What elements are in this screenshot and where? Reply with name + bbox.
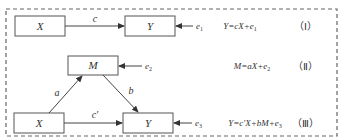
equation-number-2: （Ⅱ） [293,61,318,72]
node-m-label: M [87,59,98,71]
error-e1: e1 [196,21,203,32]
node-x-bottom-label: X [35,117,44,129]
equation-3: Y=c′X+bM+e3 [228,118,282,129]
path-label-c: c [93,13,98,24]
path-label-a: a [55,87,60,98]
path-label-c-prime: c′ [92,109,99,120]
mediation-diagram: X Y c e1 Y=cX+e1 （Ⅰ） M e2 M=aX+e2 （Ⅱ） X … [0,0,340,140]
model-3: M e2 M=aX+e2 （Ⅱ） X Y a b c′ e3 Y=c′X+bM+… [14,56,319,133]
equation-number-3: （Ⅲ） [292,118,319,129]
model-1: X Y c e1 Y=cX+e1 （Ⅰ） [15,13,317,36]
error-e2: e2 [145,61,152,72]
equation-2: M=aX+e2 [233,61,271,72]
path-label-b: b [129,85,134,96]
equation-number-1: （Ⅰ） [294,21,317,32]
equation-1: Y=cX+e1 [223,21,257,32]
error-e3: e3 [195,118,202,129]
node-x-top-label: X [36,20,45,32]
